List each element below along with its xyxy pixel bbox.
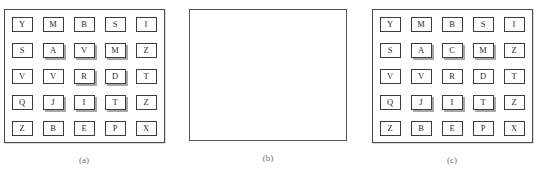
letter-tile-label: Z — [511, 46, 516, 55]
letter-tile[interactable]: D — [473, 69, 494, 84]
panel-c-grid: YMBSISACMZVVRDTQJITZZBEPX — [373, 10, 532, 142]
letter-tile[interactable]: R — [442, 69, 463, 84]
letter-tile-label: V — [81, 46, 87, 55]
letter-tile[interactable]: B — [43, 121, 64, 136]
letter-tile-highlighted[interactable]: T — [105, 95, 126, 110]
panel-c: YMBSISACMZVVRDTQJITZZBEPX(c) — [368, 0, 536, 175]
letter-tile-label: Y — [19, 20, 25, 29]
letter-tile-label: V — [418, 72, 424, 81]
grid-cell: B — [43, 121, 64, 136]
letter-tile[interactable]: Z — [504, 43, 525, 58]
letter-tile[interactable]: S — [105, 17, 126, 32]
letter-tile[interactable]: V — [411, 69, 432, 84]
letter-tile-label: Z — [143, 46, 148, 55]
letter-tile[interactable]: B — [442, 17, 463, 32]
panel-a: YMBSISAVMZVVRDTQJITZZBEPX(a) — [0, 0, 168, 175]
grid-cell: T — [105, 95, 126, 110]
grid-cell: M — [43, 17, 64, 32]
letter-tile[interactable]: Z — [504, 95, 525, 110]
letter-tile-label: R — [81, 72, 87, 81]
letter-tile-label: S — [20, 46, 25, 55]
grid-cell: Z — [504, 95, 525, 110]
letter-tile-highlighted[interactable]: A — [43, 43, 64, 58]
grid-cell: X — [504, 121, 525, 136]
letter-tile-highlighted[interactable]: C — [442, 43, 463, 58]
letter-tile-highlighted[interactable]: J — [411, 95, 432, 110]
letter-tile[interactable]: S — [380, 43, 401, 58]
letter-tile[interactable]: V — [12, 69, 33, 84]
letter-tile[interactable]: B — [74, 17, 95, 32]
letter-tile[interactable]: V — [380, 69, 401, 84]
letter-tile[interactable]: Z — [380, 121, 401, 136]
grid-cell: I — [504, 17, 525, 32]
letter-tile-label: T — [143, 72, 148, 81]
letter-tile-label: V — [50, 72, 56, 81]
letter-tile[interactable]: V — [43, 69, 64, 84]
letter-tile[interactable]: M — [411, 17, 432, 32]
letter-tile-highlighted[interactable]: D — [105, 69, 126, 84]
letter-tile[interactable]: T — [136, 69, 157, 84]
letter-tile[interactable]: E — [74, 121, 95, 136]
letter-tile-label: B — [81, 20, 87, 29]
letter-tile-label: M — [49, 20, 57, 29]
grid-cell: S — [380, 43, 401, 58]
grid-cell: J — [43, 95, 64, 110]
letter-tile[interactable]: P — [473, 121, 494, 136]
letter-tile[interactable]: P — [105, 121, 126, 136]
grid-cell: V — [43, 69, 64, 84]
letter-tile[interactable]: T — [504, 69, 525, 84]
letter-tile[interactable]: I — [136, 17, 157, 32]
grid-cell: Y — [12, 17, 33, 32]
letter-tile-highlighted[interactable]: T — [473, 95, 494, 110]
letter-tile[interactable]: M — [43, 17, 64, 32]
letter-tile-highlighted[interactable]: M — [105, 43, 126, 58]
panel-b: (b) — [184, 0, 352, 175]
letter-tile[interactable]: X — [504, 121, 525, 136]
grid-cell: Z — [136, 95, 157, 110]
letter-tile-label: Z — [511, 98, 516, 107]
letter-tile[interactable]: X — [136, 121, 157, 136]
letter-tile[interactable]: Z — [136, 95, 157, 110]
letter-tile-highlighted[interactable]: R — [74, 69, 95, 84]
grid-cell: C — [442, 43, 463, 58]
letter-tile[interactable]: E — [442, 121, 463, 136]
letter-tile-highlighted[interactable]: M — [473, 43, 494, 58]
letter-tile[interactable]: Y — [12, 17, 33, 32]
letter-tile-label: D — [480, 72, 486, 81]
grid-cell: S — [473, 17, 494, 32]
letter-tile[interactable]: I — [504, 17, 525, 32]
panel-b-box — [189, 9, 347, 141]
letter-tile[interactable]: S — [12, 43, 33, 58]
letter-tile[interactable]: Y — [380, 17, 401, 32]
panel-c-box: YMBSISACMZVVRDTQJITZZBEPX — [372, 9, 533, 143]
letter-tile-label: E — [449, 124, 454, 133]
letter-tile[interactable]: Z — [136, 43, 157, 58]
panel-c-caption: (c) — [368, 155, 536, 165]
letter-tile-highlighted[interactable]: I — [442, 95, 463, 110]
letter-tile-label: S — [113, 20, 118, 29]
grid-cell: A — [43, 43, 64, 58]
grid-cell: R — [442, 69, 463, 84]
letter-tile[interactable]: B — [411, 121, 432, 136]
grid-cell: I — [136, 17, 157, 32]
grid-cell: T — [504, 69, 525, 84]
letter-tile-highlighted[interactable]: A — [411, 43, 432, 58]
letter-tile[interactable]: Q — [12, 95, 33, 110]
letter-tile-label: Q — [387, 98, 393, 107]
letter-tile-label: A — [418, 46, 424, 55]
letter-tile-highlighted[interactable]: I — [74, 95, 95, 110]
letter-tile-label: Q — [19, 98, 25, 107]
letter-tile[interactable]: Z — [12, 121, 33, 136]
letter-tile[interactable]: S — [473, 17, 494, 32]
letter-tile-highlighted[interactable]: V — [74, 43, 95, 58]
letter-tile-label: C — [449, 46, 455, 55]
grid-cell: M — [473, 43, 494, 58]
letter-tile-label: J — [51, 98, 54, 107]
grid-cell: Q — [12, 95, 33, 110]
panel-a-grid: YMBSISAVMZVVRDTQJITZZBEPX — [5, 10, 164, 142]
letter-tile[interactable]: Q — [380, 95, 401, 110]
grid-cell: M — [411, 17, 432, 32]
letter-tile-label: S — [388, 46, 393, 55]
letter-tile-highlighted[interactable]: J — [43, 95, 64, 110]
grid-cell: D — [473, 69, 494, 84]
